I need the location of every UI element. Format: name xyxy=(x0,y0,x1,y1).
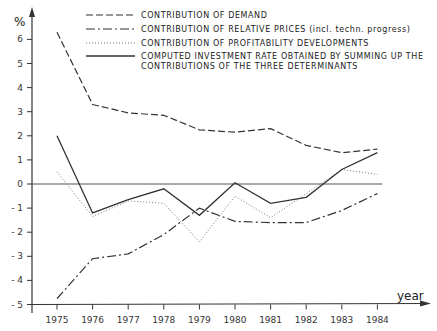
legend-label: CONTRIBUTION OF RELATIVE PRICES (incl. t… xyxy=(141,25,410,34)
x-tick-label: 1984 xyxy=(366,315,389,325)
x-tick-label: 1983 xyxy=(330,315,353,325)
y-tick-label: 0 xyxy=(17,179,23,189)
series-line-dash-dot xyxy=(57,194,377,299)
y-tick-label: 6 xyxy=(17,34,23,44)
y-tick-label: 3 xyxy=(17,107,23,117)
x-tick-label: 1978 xyxy=(152,315,175,325)
legend: CONTRIBUTION OF DEMANDCONTRIBUTION OF RE… xyxy=(86,11,424,71)
y-unit-label: % xyxy=(14,15,25,29)
series-line-dashed xyxy=(57,32,377,153)
legend-label: COMPUTED INVESTMENT RATE OBTAINED BY SUM… xyxy=(141,52,424,61)
series-group xyxy=(57,32,377,298)
y-tick-label: - 4 xyxy=(11,275,23,285)
x-axis xyxy=(32,304,428,305)
legend-label: CONTRIBUTION OF PROFITABILITY DEVELOPMEN… xyxy=(141,39,369,48)
line-chart: %- 5- 4- 3- 2- 10123456year1975197619771… xyxy=(0,0,437,331)
y-tick-label: 1 xyxy=(17,155,23,165)
y-tick-label: 2 xyxy=(17,131,23,141)
series-line-dotted xyxy=(57,170,377,242)
x-tick-label: 1977 xyxy=(117,315,140,325)
y-tick-label: - 3 xyxy=(11,251,23,261)
y-tick-label: 4 xyxy=(17,83,23,93)
x-tick-label: 1976 xyxy=(81,315,104,325)
x-tick-label: 1980 xyxy=(224,315,247,325)
y-tick-label: - 5 xyxy=(11,300,23,310)
y-tick-label: - 2 xyxy=(11,227,23,237)
y-tick-label: - 1 xyxy=(11,203,23,213)
x-tick-label: 1975 xyxy=(46,315,69,325)
x-tick-label: 1979 xyxy=(188,315,211,325)
x-tick-label: 1981 xyxy=(259,315,282,325)
x-tick-label: 1982 xyxy=(295,315,318,325)
x-axis-label: year xyxy=(397,289,424,303)
y-axis-arrow-icon xyxy=(29,7,35,17)
legend-label-line2: CONTRIBUTIONS OF THE THREE DETERMINANTS xyxy=(141,62,358,71)
y-tick-label: 5 xyxy=(17,59,23,69)
legend-label: CONTRIBUTION OF DEMAND xyxy=(141,11,267,20)
series-line-solid xyxy=(57,136,377,216)
